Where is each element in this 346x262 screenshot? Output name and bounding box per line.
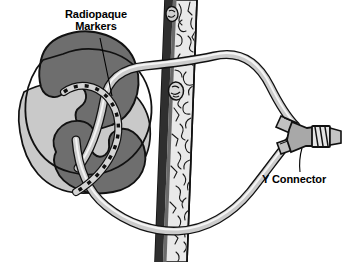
connector-tip [330,128,341,145]
illustration-canvas [0,0,346,262]
connector-body [287,122,313,152]
connector-ribbed-cap [312,126,330,147]
radiopaque-markers-label: Radiopaque Markers [44,8,148,33]
y-connector [276,116,341,154]
spine-pedicle-oval-top [165,6,178,22]
medical-illustration-figure: Radiopaque Markers Y Connector [0,0,346,262]
y-connector-label: Y Connector [262,173,346,185]
spine-pedicle-oval [168,82,184,101]
vertebral-column [155,0,197,262]
y-connector-leader-line [300,148,302,172]
